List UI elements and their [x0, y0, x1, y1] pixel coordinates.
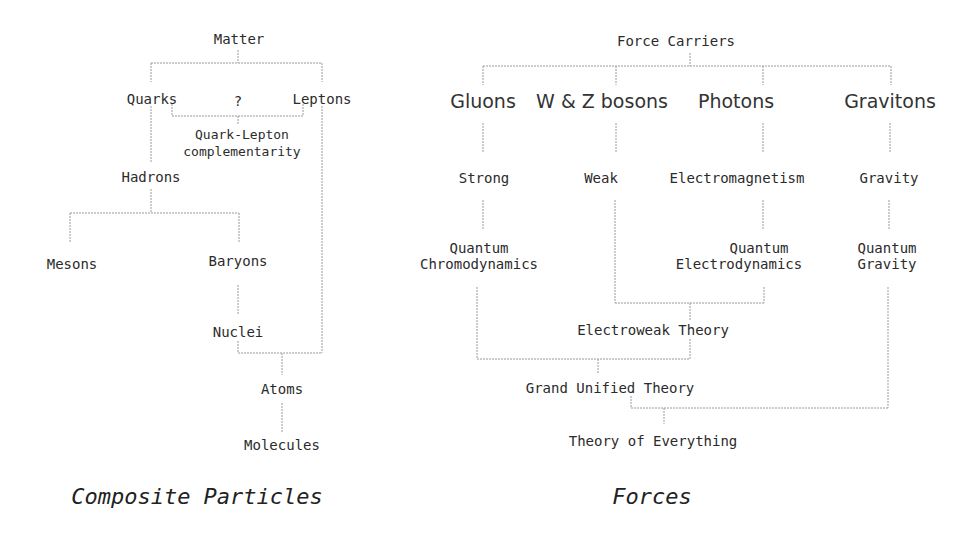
node-force-carriers: Force Carriers	[617, 33, 735, 49]
caption-forces: Forces	[612, 484, 691, 509]
qlc-line2: complementarity	[183, 143, 300, 160]
node-wz-bosons: W & Z bosons	[536, 90, 668, 112]
qg-line2: Gravity	[857, 256, 916, 272]
node-hadrons: Hadrons	[121, 169, 180, 185]
node-theory-of-everything: Theory of Everything	[569, 433, 738, 449]
node-gravity: Gravity	[859, 170, 918, 186]
node-leptons: Leptons	[292, 91, 351, 107]
node-baryons: Baryons	[208, 253, 267, 269]
node-quantum-chromodynamics: Quantum Chromodynamics	[420, 240, 538, 272]
node-quark-lepton-complementarity: Quark-Lepton complementarity	[183, 126, 300, 160]
node-photons: Photons	[698, 90, 774, 112]
qg-line1: Quantum	[857, 240, 916, 256]
node-grand-unified-theory: Grand Unified Theory	[526, 380, 695, 396]
node-question-mark: ?	[234, 93, 242, 109]
node-quarks: Quarks	[127, 91, 178, 107]
node-electroweak-theory: Electroweak Theory	[577, 322, 729, 338]
qcd-line1: Quantum	[420, 240, 538, 256]
node-molecules: Molecules	[244, 437, 320, 453]
node-strong: Strong	[459, 170, 510, 186]
node-gravitons: Gravitons	[844, 90, 936, 112]
node-mesons: Mesons	[47, 256, 98, 272]
diagram-canvas: Matter Quarks ? Leptons Quark-Lepton com…	[0, 0, 962, 540]
qlc-line1: Quark-Lepton	[183, 126, 300, 143]
node-gluons: Gluons	[450, 90, 516, 112]
qed-line2: Electrodynamics	[676, 256, 802, 272]
node-atoms: Atoms	[261, 381, 303, 397]
node-matter: Matter	[214, 31, 265, 47]
node-nuclei: Nuclei	[213, 324, 264, 340]
node-electromagnetism: Electromagnetism	[670, 170, 805, 186]
qcd-line2: Chromodynamics	[420, 256, 538, 272]
qed-line1: Quantum	[676, 240, 802, 256]
node-weak: Weak	[584, 170, 618, 186]
node-quantum-electrodynamics: Quantum Electrodynamics	[676, 240, 802, 272]
node-quantum-gravity: Quantum Gravity	[857, 240, 916, 272]
caption-composite-particles: Composite Particles	[71, 484, 323, 509]
